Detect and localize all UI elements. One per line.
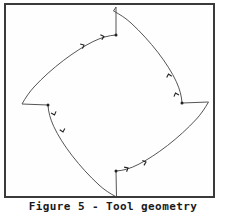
vertex-dot-notch-top-inner xyxy=(115,34,118,37)
vertex-dots-group xyxy=(47,34,184,173)
tool-geometry-drawing xyxy=(6,5,213,196)
vertex-dot-notch-right-inner xyxy=(181,102,184,105)
vertex-dot-notch-bottom-inner xyxy=(115,170,118,173)
figure-caption: Figure 5 - Tool geometry xyxy=(0,200,226,213)
arrow-right-fillet-icon xyxy=(173,92,179,96)
arrow-left-fillet-icon xyxy=(51,111,57,115)
arrow-top-left-arc-a-icon xyxy=(80,43,85,49)
figure-frame xyxy=(4,3,215,198)
vertex-dot-notch-left-inner xyxy=(47,104,50,107)
arrow-left-lower-arc-icon xyxy=(60,128,66,132)
arrow-top-left-arc-b-icon xyxy=(100,34,104,40)
arrow-right-upper-arc-icon xyxy=(166,73,172,77)
figure-page: Figure 5 - Tool geometry xyxy=(0,0,226,223)
